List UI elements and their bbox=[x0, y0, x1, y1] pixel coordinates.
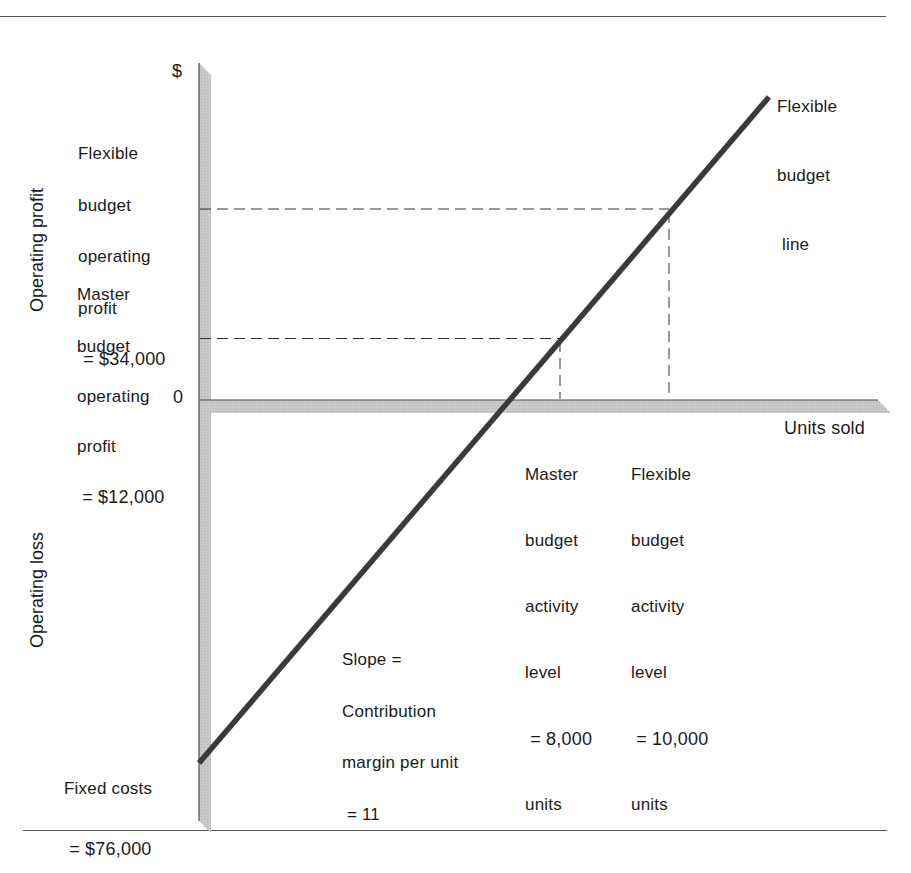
y-axis-band bbox=[199, 63, 211, 833]
operating-profit-axis-label: Operating profit bbox=[27, 188, 48, 312]
operating-loss-axis-label: Operating loss bbox=[27, 532, 48, 648]
slope-annotation: Slope = Contribution margin per unit = 1… bbox=[342, 617, 458, 840]
zero-axis-label: 0 bbox=[173, 389, 183, 406]
master-activity-label: Master budget activity level = 8,000 uni… bbox=[525, 420, 592, 838]
units-sold-label: Units sold bbox=[784, 420, 865, 437]
x-axis-band bbox=[199, 400, 891, 413]
flex-activity-label: Flexible budget activity level = 10,000 … bbox=[631, 420, 708, 838]
dollar-axis-label: $ bbox=[172, 63, 182, 80]
master-profit-label: Master budget operating profit = $12,000 bbox=[77, 252, 165, 524]
fixed-costs-label: Fixed costs = $76,000 bbox=[64, 739, 152, 873]
flexible-budget-line-label: Flexible budget line bbox=[777, 49, 837, 279]
